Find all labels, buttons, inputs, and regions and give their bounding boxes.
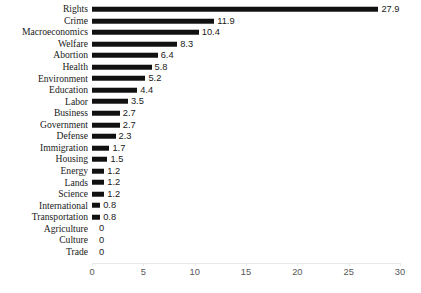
- x-tick-label: 20: [292, 267, 302, 278]
- category-label: Abortion: [0, 50, 88, 60]
- category-label: Environment: [0, 74, 88, 84]
- category-label: Business: [0, 108, 88, 118]
- category-label: International: [0, 201, 88, 211]
- category-label: Defense: [0, 131, 88, 141]
- plot-area: Rights27.9Crime11.9Macroeconomics10.4Wel…: [0, 0, 421, 293]
- bar: [92, 111, 120, 116]
- chart-row: Defense2.3: [0, 131, 421, 143]
- x-tick-mark: [246, 263, 247, 266]
- bar-value-label: 0: [96, 235, 104, 245]
- chart-row: International0.8: [0, 200, 421, 212]
- bar-container: 0: [92, 234, 421, 246]
- bar-container: 0: [92, 246, 421, 258]
- category-label: Macroeconomics: [0, 27, 88, 37]
- bar: [92, 7, 378, 12]
- bar: [92, 180, 104, 185]
- chart-row: Agriculture0: [0, 223, 421, 235]
- bar-container: 2.3: [92, 131, 421, 143]
- category-label: Transportation: [0, 212, 88, 222]
- chart-row: Environment5.2: [0, 73, 421, 85]
- bar-container: 10.4: [92, 27, 421, 39]
- category-label: Science: [0, 189, 88, 199]
- bar-value-label: 0: [96, 224, 104, 234]
- category-label: Government: [0, 120, 88, 130]
- bar: [92, 157, 107, 162]
- bar-value-label: 1.2: [104, 166, 120, 176]
- chart-row: Labor3.5: [0, 96, 421, 108]
- bar-container: 1.2: [92, 177, 421, 189]
- x-tick-label: 10: [189, 267, 199, 278]
- chart-row: Business2.7: [0, 107, 421, 119]
- chart-row: Transportation0.8: [0, 211, 421, 223]
- bar-value-label: 0.8: [100, 212, 116, 222]
- chart-row: Energy1.2: [0, 165, 421, 177]
- chart-row: Education4.4: [0, 84, 421, 96]
- x-tick-mark: [92, 263, 93, 266]
- category-label: Health: [0, 62, 88, 72]
- bar-container: 3.5: [92, 96, 421, 108]
- x-tick-label: 15: [241, 267, 251, 278]
- chart-row: Welfare8.3: [0, 38, 421, 50]
- category-label: Crime: [0, 16, 88, 26]
- bar: [92, 53, 158, 58]
- bar-container: 5.2: [92, 73, 421, 85]
- bar-container: 2.7: [92, 119, 421, 131]
- category-label: Labor: [0, 97, 88, 107]
- chart-row: Abortion6.4: [0, 50, 421, 62]
- bar-container: 5.8: [92, 61, 421, 73]
- bar-value-label: 0.8: [100, 201, 116, 211]
- chart-row: Crime11.9: [0, 15, 421, 27]
- bar-value-label: 2.7: [120, 108, 136, 118]
- chart-row: Health5.8: [0, 61, 421, 73]
- bar-chart: Rights27.9Crime11.9Macroeconomics10.4Wel…: [0, 0, 421, 293]
- bar: [92, 41, 177, 46]
- bar-container: 1.2: [92, 188, 421, 200]
- x-tick-label: 30: [395, 267, 405, 278]
- bar: [92, 122, 120, 127]
- bar: [92, 134, 116, 139]
- bar: [92, 215, 100, 220]
- bar-value-label: 5.8: [152, 62, 168, 72]
- x-tick-mark: [349, 263, 350, 266]
- bar-value-label: 10.4: [199, 27, 220, 37]
- bar-container: 0.8: [92, 211, 421, 223]
- bar-container: 27.9: [92, 3, 421, 15]
- category-label: Rights: [0, 4, 88, 14]
- chart-row: Housing1.5: [0, 154, 421, 166]
- chart-row: Culture0: [0, 235, 421, 247]
- bar-container: 0.8: [92, 200, 421, 212]
- category-label: Housing: [0, 154, 88, 164]
- bar-value-label: 8.3: [177, 39, 193, 49]
- category-label: Lands: [0, 178, 88, 188]
- bar: [92, 99, 128, 104]
- bar-container: 2.7: [92, 107, 421, 119]
- bar: [92, 65, 152, 70]
- bar-value-label: 4.4: [137, 85, 153, 95]
- category-label: Culture: [0, 235, 88, 245]
- bar-value-label: 5.2: [145, 74, 161, 84]
- bar-container: 1.7: [92, 142, 421, 154]
- bar-value-label: 3.5: [128, 97, 144, 107]
- bar: [92, 76, 145, 81]
- bar-value-label: 11.9: [214, 16, 234, 26]
- bar-value-label: 0: [96, 247, 104, 257]
- category-label: Trade: [0, 247, 88, 257]
- x-tick-mark: [195, 263, 196, 266]
- bar: [92, 203, 100, 208]
- chart-row: Government2.7: [0, 119, 421, 131]
- bar: [92, 18, 214, 23]
- bar-value-label: 6.4: [158, 50, 174, 60]
- chart-row: Lands1.2: [0, 177, 421, 189]
- bar-container: 8.3: [92, 38, 421, 50]
- bar-value-label: 1.5: [107, 154, 123, 164]
- x-tick-label: 0: [89, 267, 94, 278]
- x-tick-mark: [143, 263, 144, 266]
- chart-row: Macroeconomics10.4: [0, 27, 421, 39]
- bar: [92, 30, 199, 35]
- chart-row: Trade0: [0, 246, 421, 258]
- bar-value-label: 1.2: [104, 189, 120, 199]
- bar-container: 11.9: [92, 15, 421, 27]
- x-tick-mark: [400, 263, 401, 266]
- bar-container: 1.5: [92, 154, 421, 166]
- category-label: Education: [0, 85, 88, 95]
